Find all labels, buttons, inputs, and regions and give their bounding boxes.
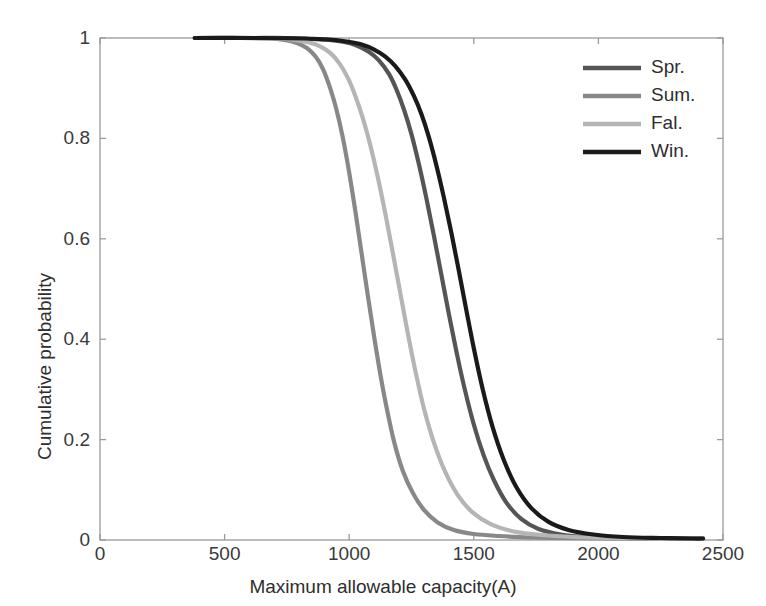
legend-swatches [583,68,641,152]
series-lines [195,38,703,539]
legend-label-sum: Sum. [651,84,695,106]
series-line-fal [195,38,703,539]
legend-label-spr: Spr. [651,56,685,78]
x-axis-title: Maximum allowable capacity(A) [0,576,766,598]
legend-label-fal: Fal. [651,112,683,134]
x-tick-label: 500 [209,543,241,565]
x-tick-label: 0 [95,543,106,565]
figure-canvas: 05001000150020002500 00.20.40.60.81 Spr.… [0,0,766,606]
y-tick-label: 0.6 [38,228,90,250]
series-line-sum [195,38,703,539]
x-tick-label: 2500 [702,543,744,565]
y-tick-label: 1 [38,27,90,49]
axis-frame [100,38,723,540]
y-axis-title: Cumulative probability [34,273,56,460]
x-tick-label: 2000 [577,543,619,565]
legend-label-win: Win. [651,140,689,162]
y-tick-label: 0 [38,529,90,551]
tick-marks [100,38,723,540]
series-line-spr [195,38,703,539]
x-tick-label: 1500 [453,543,495,565]
y-tick-label: 0.8 [38,127,90,149]
series-line-win [195,38,703,539]
x-tick-label: 1000 [328,543,370,565]
